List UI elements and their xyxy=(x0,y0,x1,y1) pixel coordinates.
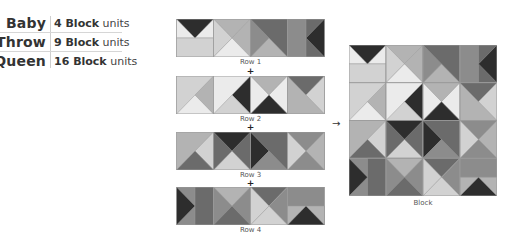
size-row-throw: Throw 9 Block units xyxy=(0,33,122,52)
unit-text: units xyxy=(103,17,130,30)
row-3-strip xyxy=(176,132,325,170)
block-count: 9 Block xyxy=(54,36,99,49)
size-value: 4 Block units xyxy=(54,17,130,30)
plus-icon: + xyxy=(176,179,325,187)
row-4-strip xyxy=(176,187,325,225)
block-count: 4 Block xyxy=(54,17,99,30)
block-count: 16 Block xyxy=(54,55,107,68)
unit-text: units xyxy=(110,55,137,68)
size-label: Baby xyxy=(6,15,46,31)
size-label: Throw xyxy=(0,34,46,50)
row-1-strip xyxy=(176,19,325,57)
assembled-block xyxy=(349,45,497,196)
size-row-baby: Baby 4 Block units xyxy=(0,14,122,33)
row-2-strip xyxy=(176,76,325,114)
size-table: Baby 4 Block units Throw 9 Block units Q… xyxy=(0,14,122,70)
size-value: 9 Block units xyxy=(54,36,130,49)
size-row-queen: Queen 16 Block units xyxy=(0,52,122,70)
plus-icon: + xyxy=(176,123,325,131)
size-value: 16 Block units xyxy=(54,55,137,68)
row-4-label: Row 4 xyxy=(176,226,325,232)
size-label: Queen xyxy=(0,53,46,69)
block-label: Block xyxy=(349,199,497,207)
row-1-label: Row 1 xyxy=(176,58,325,66)
plus-icon: + xyxy=(176,67,325,75)
arrow-right-icon: → xyxy=(332,118,340,129)
unit-text: units xyxy=(103,36,130,49)
